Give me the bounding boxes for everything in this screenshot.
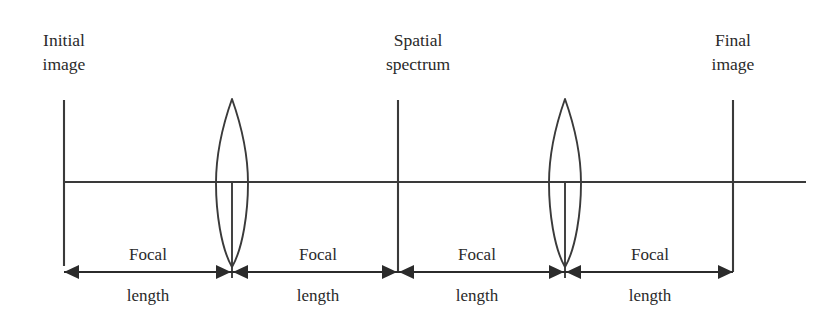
- plane-label-final-image-line1: Final: [669, 28, 797, 52]
- focal-4-label-bottom: length: [590, 285, 710, 307]
- focal-1-label-bottom: length: [88, 285, 208, 307]
- plane-label-initial-image-line2: image: [0, 52, 128, 76]
- focal-4-label-top: Focal: [590, 244, 710, 266]
- arrowhead-left-end: [64, 265, 79, 279]
- plane-label-initial-image: Initial image: [0, 28, 128, 76]
- plane-label-final-image-line2: image: [669, 52, 797, 76]
- figure-canvas: Initial image Spatial spectrum Final ima…: [0, 0, 838, 331]
- focal-1-label-top: Focal: [88, 244, 208, 266]
- plane-label-spatial-spectrum-line1: Spatial: [338, 28, 498, 52]
- focal-3-label-bottom: length: [417, 285, 537, 307]
- plane-label-final-image: Final image: [669, 28, 797, 76]
- plane-label-spatial-spectrum: Spatial spectrum: [338, 28, 498, 76]
- arrowhead-fourier-right: [399, 265, 414, 279]
- plane-label-initial-image-line1: Initial: [0, 28, 128, 52]
- arrowhead-lens1-right: [233, 265, 248, 279]
- lens-1: [216, 99, 248, 278]
- arrowhead-right-end: [718, 265, 733, 279]
- arrowhead-lens2-left: [549, 265, 564, 279]
- focal-2-label-bottom: length: [258, 285, 378, 307]
- lens-2: [549, 99, 581, 278]
- focal-3-label-top: Focal: [417, 244, 537, 266]
- arrowhead-lens1-left: [216, 265, 231, 279]
- focal-2-label-top: Focal: [258, 244, 378, 266]
- arrowhead-lens2-right: [566, 265, 581, 279]
- plane-label-spatial-spectrum-line2: spectrum: [338, 52, 498, 76]
- arrowhead-fourier-left: [382, 265, 397, 279]
